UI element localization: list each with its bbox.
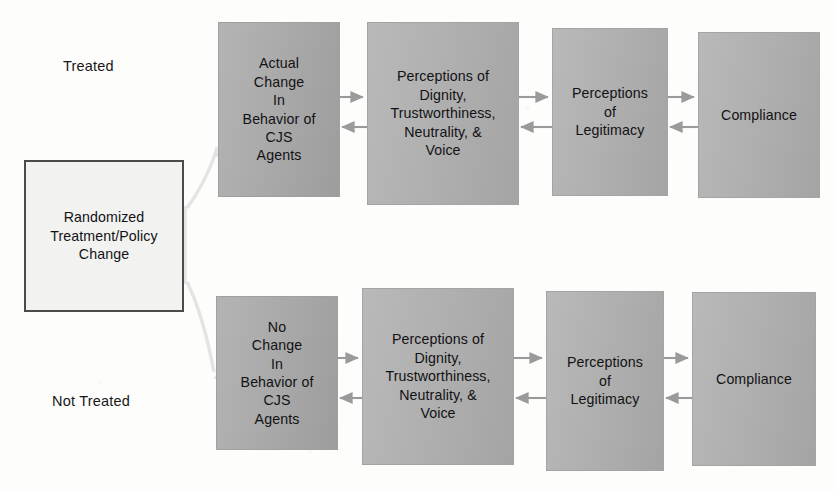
node-line: Compliance — [716, 371, 792, 387]
node-untreated-no-change-in-behavior[interactable]: No Change In Behavior of CJS Agents — [216, 296, 338, 450]
node-line: In — [271, 356, 283, 372]
node-label: Compliance — [705, 106, 813, 124]
group-label-not-treated: Not Treated — [52, 393, 130, 409]
node-line: CJS — [265, 129, 292, 145]
node-line: Change — [79, 246, 129, 262]
node-line: Perceptions — [567, 354, 643, 370]
node-line: Actual — [259, 55, 299, 71]
diagram-canvas: Treated Not Treated Randomized Treatment… — [0, 0, 837, 490]
node-line: Neutrality, & — [399, 387, 477, 403]
fork-line-to-not-treated — [187, 282, 214, 372]
node-line: No — [268, 319, 286, 335]
node-untreated-perceptions-of-dignity[interactable]: Perceptions of Dignity, Trustworthiness,… — [362, 288, 514, 465]
node-treated-actual-change-in-behavior[interactable]: Actual Change In Behavior of CJS Agents — [218, 22, 340, 197]
node-line: Change — [254, 74, 304, 90]
node-treated-perceptions-of-legitimacy[interactable]: Perceptions of Legitimacy — [552, 28, 668, 196]
node-treated-perceptions-of-dignity[interactable]: Perceptions of Dignity, Trustworthiness,… — [367, 22, 519, 205]
node-line: Voice — [425, 142, 460, 158]
node-line: Dignity, — [414, 350, 461, 366]
node-label: Perceptions of Dignity, Trustworthiness,… — [369, 330, 507, 422]
node-line: CJS — [263, 392, 290, 408]
node-line: Perceptions — [572, 85, 648, 101]
node-label: Actual Change In Behavior of CJS Agents — [225, 54, 333, 165]
node-line: Behavior of — [243, 111, 316, 127]
group-label-treated: Treated — [63, 58, 114, 74]
node-line: Legitimacy — [576, 122, 645, 138]
node-line: Treatment/Policy — [50, 228, 158, 244]
node-line: Trustworthiness, — [385, 368, 490, 384]
node-line: Legitimacy — [571, 391, 640, 407]
node-line: Behavior of — [241, 374, 314, 390]
node-label: Randomized Treatment/Policy Change — [32, 208, 176, 263]
node-line: Trustworthiness, — [390, 105, 495, 121]
node-line: of — [604, 104, 616, 120]
node-line: In — [273, 92, 285, 108]
node-line: Compliance — [721, 107, 797, 123]
node-line: Change — [252, 337, 302, 353]
node-line: Randomized — [64, 209, 145, 225]
figure-title: Randomized Treatment / Procedural Justic… — [0, 0, 1, 1]
node-randomized-treatment-policy-change[interactable]: Randomized Treatment/Policy Change — [24, 160, 184, 312]
node-line: Neutrality, & — [404, 124, 482, 140]
node-line: Agents — [255, 411, 300, 427]
node-label: Compliance — [699, 370, 809, 388]
node-label: Perceptions of Legitimacy — [559, 84, 661, 139]
node-line: Perceptions of — [392, 331, 484, 347]
node-untreated-perceptions-of-legitimacy[interactable]: Perceptions of Legitimacy — [546, 291, 664, 471]
node-label: Perceptions of Legitimacy — [553, 353, 657, 408]
node-untreated-compliance[interactable]: Compliance — [692, 292, 816, 466]
fork-line-to-treated — [187, 152, 216, 208]
node-line: Dignity, — [419, 87, 466, 103]
node-line: Agents — [257, 147, 302, 163]
node-line: Perceptions of — [397, 68, 489, 84]
node-line: Voice — [420, 405, 455, 421]
node-label: No Change In Behavior of CJS Agents — [223, 318, 331, 429]
node-label: Perceptions of Dignity, Trustworthiness,… — [374, 67, 512, 159]
node-line: of — [599, 373, 611, 389]
node-treated-compliance[interactable]: Compliance — [698, 32, 820, 198]
